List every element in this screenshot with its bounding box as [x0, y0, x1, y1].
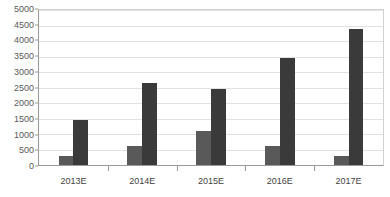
- y-axis-tick-label: 3500: [14, 52, 34, 61]
- bar: [196, 131, 211, 165]
- x-axis: 2013E2014E2015E2016E2017E: [39, 174, 383, 188]
- x-axis-ticks: [39, 166, 383, 171]
- bar-chart: 0500100015002000250030003500400045005000…: [0, 0, 390, 197]
- y-axis-tick-label: 2000: [14, 99, 34, 108]
- bar: [349, 29, 364, 165]
- y-axis-tick-label: 500: [19, 146, 34, 155]
- x-axis-tick-label: 2015E: [198, 174, 224, 188]
- x-axis-tick-mark: [177, 166, 178, 171]
- y-axis-tick-label: 4500: [14, 20, 34, 29]
- y-axis-tick-label: 0: [29, 162, 34, 171]
- y-axis-tick-label: 1000: [14, 130, 34, 139]
- y-axis-tick-label: 2500: [14, 83, 34, 92]
- y-axis-tick-label: 3000: [14, 67, 34, 76]
- bar: [211, 89, 226, 165]
- bar: [59, 156, 74, 165]
- x-axis-tick-mark: [314, 166, 315, 171]
- bars-layer: [39, 10, 383, 165]
- bar: [265, 146, 280, 165]
- x-axis-tick-label: 2017E: [336, 174, 362, 188]
- x-axis-tick-label: 2014E: [129, 174, 155, 188]
- x-axis-tick-label: 2016E: [267, 174, 293, 188]
- bar: [334, 156, 349, 165]
- y-axis-tick-label: 1500: [14, 114, 34, 123]
- y-axis-tick-label: 4000: [14, 36, 34, 45]
- x-axis-tick-mark: [108, 166, 109, 171]
- y-axis: 0500100015002000250030003500400045005000: [0, 9, 34, 166]
- bar: [73, 120, 88, 165]
- bar: [142, 83, 157, 165]
- x-axis-tick-mark: [245, 166, 246, 171]
- x-axis-tick-label: 2013E: [60, 174, 86, 188]
- bar: [280, 58, 295, 165]
- y-axis-tick-label: 5000: [14, 5, 34, 14]
- bar: [127, 146, 142, 165]
